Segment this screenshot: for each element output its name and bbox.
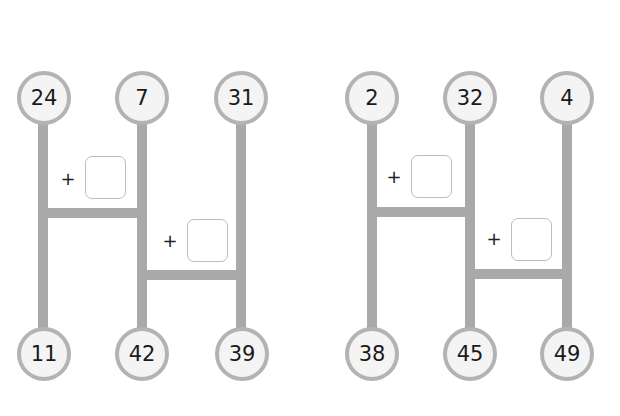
answer-box[interactable] (411, 155, 452, 198)
plus-sign: + (386, 168, 401, 186)
horizontal-bar (372, 207, 470, 217)
plus-sign: + (486, 230, 501, 248)
horizontal-bar (470, 269, 567, 279)
top-node: 4 (540, 71, 594, 125)
answer-box[interactable] (511, 218, 552, 261)
puzzle-right: 2 32 4 38 45 49 + + (0, 0, 620, 416)
bottom-node: 38 (345, 327, 399, 381)
vertical-line (367, 120, 377, 334)
bottom-node: 49 (540, 327, 594, 381)
top-node: 2 (345, 71, 399, 125)
vertical-line (465, 120, 475, 334)
top-node: 32 (443, 71, 497, 125)
vertical-line (562, 120, 572, 334)
bottom-node: 45 (443, 327, 497, 381)
